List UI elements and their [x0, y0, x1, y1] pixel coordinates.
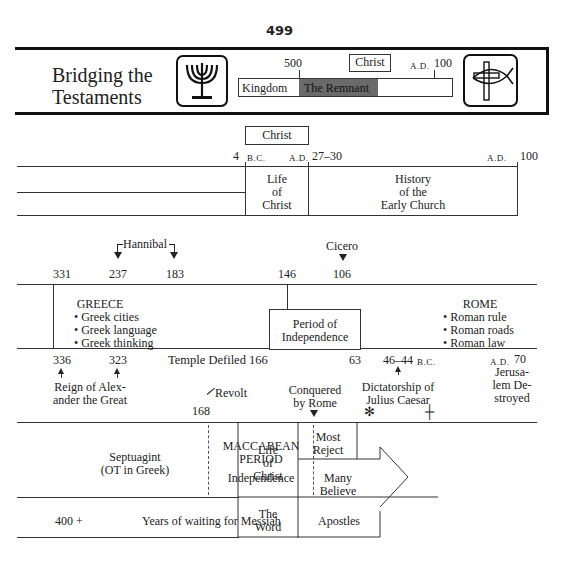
mini-ad-prefix: A.D.: [410, 60, 430, 73]
timeline-line: [17, 537, 239, 538]
arrow-down-icon: [310, 410, 318, 417]
mini-ad-100: 100: [434, 57, 452, 70]
arrow-down-icon: [170, 252, 178, 259]
divider: [53, 284, 54, 348]
timeline-line: [17, 192, 245, 193]
rome-item: • Roman law: [443, 337, 505, 350]
date-bc: B.C.: [247, 152, 266, 165]
jerusalem-3: stroyed: [482, 392, 542, 405]
the-word-2: Word: [238, 521, 298, 534]
septuagint-2: (OT in Greek): [80, 464, 190, 477]
arrow-stem: [117, 373, 118, 378]
date-168: 168: [192, 405, 210, 418]
many-believe-2: Believe: [298, 485, 378, 498]
revolt-arrow-icon: [207, 388, 215, 395]
date-63: 63: [349, 354, 361, 367]
most-reject-2: Reject: [298, 444, 358, 457]
cross-death-icon: ┼: [425, 405, 434, 418]
page-number: 499: [266, 24, 293, 37]
date-ad100-prefix: A.D.: [487, 152, 507, 165]
menorah-icon: [176, 55, 228, 107]
arrow-stem: [61, 373, 62, 378]
greece-item: • Greek thinking: [74, 337, 154, 350]
title-line-1: Bridging the: [52, 64, 153, 86]
christ-label: Christ: [245, 129, 309, 142]
arrow-up-icon: [395, 366, 401, 372]
date-336: 336: [53, 354, 71, 367]
timeline-line: [17, 284, 537, 285]
asterisk-birth-icon: ✻: [364, 405, 375, 418]
kingdom-label: Kingdom: [242, 82, 287, 95]
revolt-label: Revolt: [215, 387, 247, 400]
remnant-label: The Remnant: [304, 82, 369, 95]
date-27-30: 27–30: [312, 150, 342, 163]
title-line-2: Testaments: [52, 86, 142, 108]
apostles: Apostles: [298, 515, 380, 528]
timeline-line: [17, 166, 518, 167]
alexander-2: ander the Great: [50, 394, 130, 407]
divider: [287, 284, 288, 310]
cicero-label: Cicero: [326, 240, 358, 253]
date-bc: B.C.: [417, 356, 436, 369]
mini-christ-label: Christ: [349, 56, 391, 69]
date-4: 4: [233, 150, 239, 163]
date-323: 323: [109, 354, 127, 367]
timeline-line: [17, 215, 518, 216]
hannibal-label: Hannibal: [123, 238, 167, 251]
temple-defiled: Temple Defiled 166: [168, 354, 268, 367]
date-331: 331: [53, 268, 71, 281]
independence-2: Independence: [269, 331, 361, 344]
life-of-christ-3: Christ: [246, 199, 308, 212]
date-ad: A.D.: [289, 152, 309, 165]
date-237: 237: [109, 268, 127, 281]
date-183: 183: [166, 268, 184, 281]
years-number: 400 +: [55, 515, 83, 528]
cross-fish-icon: [463, 54, 518, 107]
arrow-down-icon: [114, 252, 122, 259]
mini-tick-500: 500: [284, 57, 302, 70]
date-ad100: 100: [520, 150, 538, 163]
divider: [517, 162, 518, 215]
conquered-2: by Rome: [280, 397, 350, 410]
dashed-divider: [208, 425, 209, 495]
arrow-down-icon: [339, 254, 347, 261]
timeline-line: [17, 497, 239, 498]
date-106: 106: [333, 268, 351, 281]
life-of-christ-3-3: Christ: [238, 470, 298, 483]
early-church-3: Early Church: [309, 199, 517, 212]
date-146: 146: [278, 268, 296, 281]
